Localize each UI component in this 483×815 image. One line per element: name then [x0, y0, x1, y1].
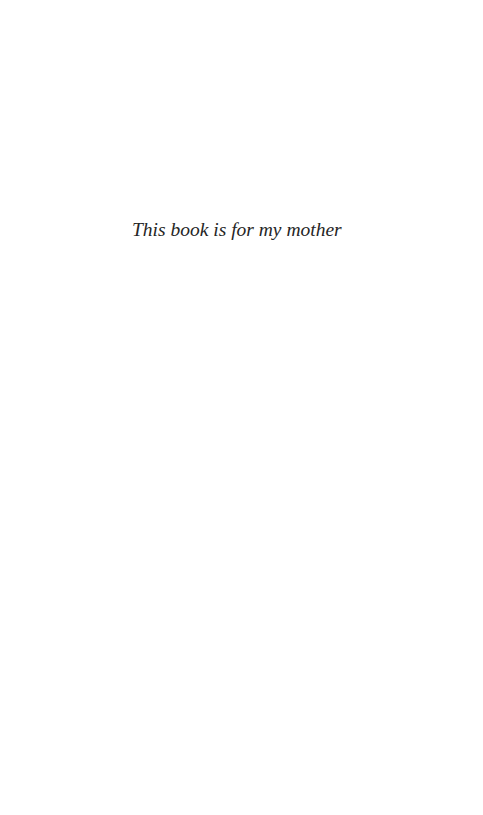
dedication-text: This book is for my mother: [132, 218, 342, 242]
book-page: This book is for my mother: [0, 0, 483, 815]
